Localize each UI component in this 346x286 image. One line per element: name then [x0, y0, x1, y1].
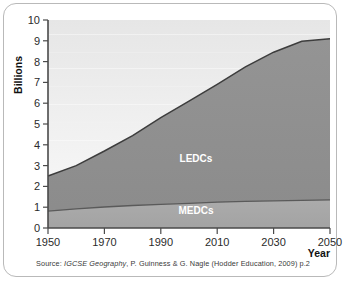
source-caption: Source: IGCSE Geography, P. Guinness & G… — [0, 259, 346, 268]
population-area-chart: 10 9 8 7 6 5 4 3 2 1 0 1950 1970 1990 20… — [0, 0, 346, 286]
chart-svg: 10 9 8 7 6 5 4 3 2 1 0 1950 1970 1990 20… — [0, 0, 346, 286]
x-tick-2010: 2010 — [205, 236, 229, 248]
x-tick-1990: 1990 — [149, 236, 173, 248]
y-tick-7: 7 — [34, 76, 40, 88]
x-tick-1950: 1950 — [36, 236, 60, 248]
y-tick-2: 2 — [34, 180, 40, 192]
y-tick-9: 9 — [34, 35, 40, 47]
source-rest: , P. Guinness & G. Nagle (Hodder Educati… — [126, 259, 310, 268]
y-tick-5: 5 — [34, 118, 40, 130]
y-tick-1: 1 — [34, 201, 40, 213]
source-title: IGCSE Geography — [64, 259, 126, 268]
medc-band-label: MEDCs — [178, 205, 213, 216]
y-tick-3: 3 — [34, 160, 40, 172]
y-tick-4: 4 — [34, 139, 40, 151]
y-tick-0: 0 — [34, 222, 40, 234]
x-tick-2030: 2030 — [261, 236, 285, 248]
y-axis-title: Billions — [12, 56, 24, 94]
ledc-band-label: LEDCs — [180, 153, 213, 164]
x-axis-ticks — [48, 228, 330, 234]
y-tick-8: 8 — [34, 56, 40, 68]
x-axis-title: Year — [308, 247, 330, 259]
x-axis-tick-labels: 1950 1970 1990 2010 2030 2050 — [36, 236, 342, 248]
y-axis-tick-labels: 10 9 8 7 6 5 4 3 2 1 0 — [28, 14, 40, 234]
y-tick-10: 10 — [28, 14, 40, 26]
x-tick-1970: 1970 — [92, 236, 116, 248]
source-prefix: Source: — [36, 259, 64, 268]
y-tick-6: 6 — [34, 97, 40, 109]
